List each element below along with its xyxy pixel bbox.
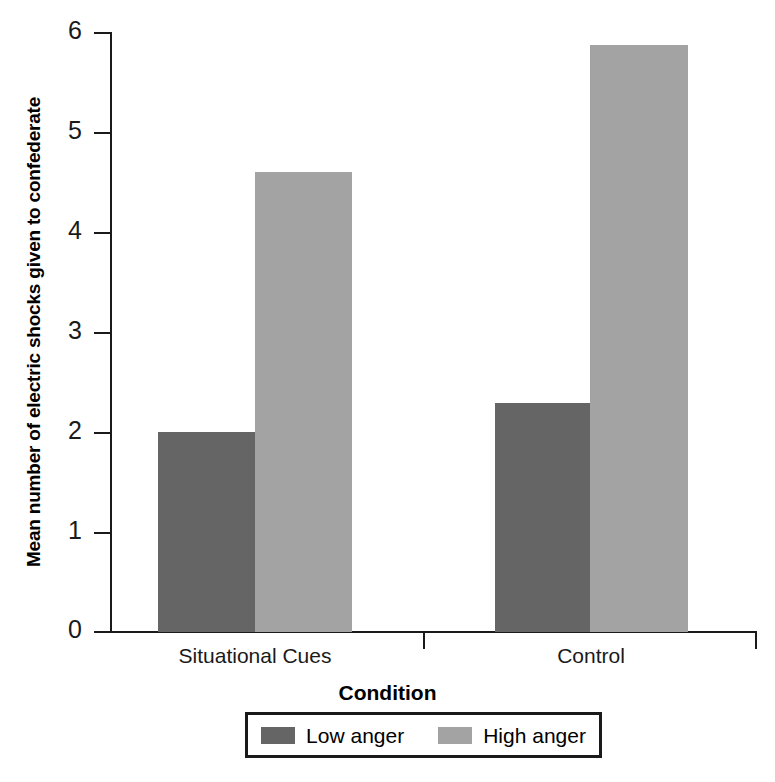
- legend-swatch-icon-low-anger: [261, 727, 295, 744]
- bar-control-high-anger: [590, 45, 688, 632]
- x-axis-title: Condition: [0, 681, 775, 705]
- bar-control-low-anger: [495, 403, 590, 632]
- bar-situational-cues-high-anger: [255, 172, 352, 632]
- chart-legend: Low anger High anger: [245, 712, 602, 758]
- bar-chart-figure: Mean number of electric shocks given to …: [0, 0, 775, 782]
- x-tick-label-situational-cues: Situational Cues: [155, 645, 355, 666]
- x-tick-label-control: Control: [491, 645, 691, 666]
- x-tick-group-separator: [423, 633, 425, 649]
- bars-layer: [0, 0, 775, 632]
- legend-item-low-anger: Low anger: [261, 725, 404, 746]
- x-tick-right-end: [755, 633, 757, 649]
- bar-situational-cues-low-anger: [158, 432, 255, 632]
- legend-swatch-icon-high-anger: [438, 727, 472, 744]
- legend-label-low-anger: Low anger: [306, 725, 404, 746]
- legend-item-high-anger: High anger: [438, 725, 586, 746]
- legend-label-high-anger: High anger: [483, 725, 586, 746]
